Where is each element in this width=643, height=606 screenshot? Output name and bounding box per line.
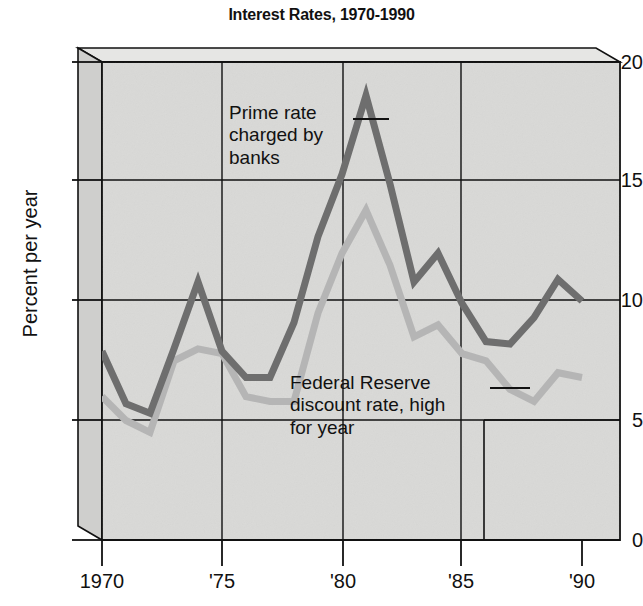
annotation-prime-rate: Prime rate charged by banks xyxy=(229,102,323,169)
x-tick-label-1990: '90 xyxy=(569,570,595,593)
y-tick-label-5: 5 xyxy=(597,409,643,432)
y-axis-title: Percent per year xyxy=(19,174,42,354)
x-tick-label-1970: 1970 xyxy=(80,570,125,593)
annotation-fed-line-3: for year xyxy=(290,417,445,439)
x-tick-label-1975: '75 xyxy=(209,570,235,593)
chart-plot-area xyxy=(0,0,643,606)
y-tick-label-15: 15 xyxy=(597,169,643,192)
y-tick-label-0: 0 xyxy=(597,529,643,552)
x-axis-ticks xyxy=(102,540,582,566)
annotation-discount-rate: Federal Reserve discount rate, high for … xyxy=(290,372,445,439)
annotation-prime-line-2: charged by xyxy=(229,124,323,146)
chart-root: Interest Rates, 1970-1990 xyxy=(0,0,643,606)
annotation-fed-line-1: Federal Reserve xyxy=(290,372,445,394)
annotation-fed-line-2: discount rate, high xyxy=(290,394,445,416)
x-tick-label-1980: '80 xyxy=(330,570,356,593)
x-tick-label-1985: '85 xyxy=(448,570,474,593)
annotation-prime-line-1: Prime rate xyxy=(229,102,323,124)
panel-top-face xyxy=(78,48,620,62)
y-tick-label-20: 20 xyxy=(597,51,643,74)
panel-left-face xyxy=(78,48,102,540)
annotation-prime-line-3: banks xyxy=(229,147,323,169)
y-tick-label-10: 10 xyxy=(597,289,643,312)
